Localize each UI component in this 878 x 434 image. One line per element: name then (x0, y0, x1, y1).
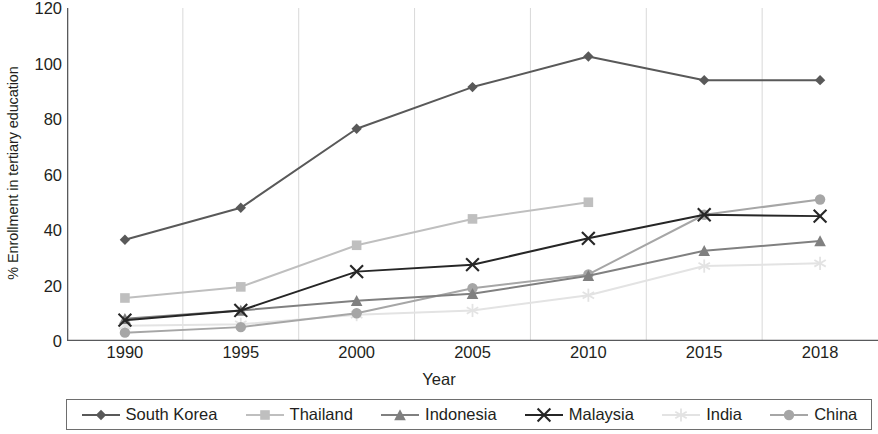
legend-item-malaysia[interactable]: Malaysia (524, 405, 634, 425)
y-tick-label: 20 (22, 277, 62, 294)
legend-label: China (811, 405, 857, 424)
marker-diamond (699, 75, 709, 85)
x-tick-label: 2010 (570, 344, 607, 361)
legend-label: Malaysia (566, 405, 634, 424)
x-tick-label: 2018 (802, 344, 839, 361)
legend-item-india[interactable]: India (661, 405, 742, 425)
legend-label: Indonesia (422, 405, 497, 424)
marker-diamond (583, 51, 593, 61)
legend-item-south-korea[interactable]: South Korea (81, 405, 218, 425)
x-tick-label: 2015 (686, 344, 723, 361)
legend-key-diamond-icon (81, 405, 121, 425)
tertiary-enrollment-line-chart: % Enrollment in tertiary education 12010… (0, 0, 878, 434)
y-tick-label: 100 (22, 55, 62, 72)
marker-square (120, 293, 130, 303)
legend-key-triangle-icon (380, 405, 420, 425)
y-tick-label: 40 (22, 222, 62, 239)
chart-legend: South KoreaThailandIndonesiaMalaysiaIndi… (66, 399, 872, 430)
x-axis-tick-labels: 1990199520002005201020152018 (67, 344, 878, 368)
legend-item-thailand[interactable]: Thailand (245, 405, 353, 425)
legend-key-x-icon (524, 405, 564, 425)
marker-diamond (815, 75, 825, 85)
marker-diamond (467, 82, 477, 92)
x-tick-label: 2005 (454, 344, 491, 361)
legend-label: India (703, 405, 742, 424)
marker-square (260, 410, 270, 420)
legend-item-china[interactable]: China (769, 405, 857, 425)
marker-circle (351, 308, 361, 318)
legend-key-circle-icon (769, 405, 809, 425)
plot-svg (67, 8, 878, 341)
legend-key-square-icon (245, 405, 285, 425)
x-tick-label: 1990 (107, 344, 144, 361)
marker-square (236, 282, 246, 292)
x-axis-title: Year (0, 370, 878, 389)
x-tick-label: 2000 (338, 344, 375, 361)
marker-square (584, 197, 594, 207)
marker-square (468, 214, 478, 224)
y-tick-label: 120 (22, 0, 62, 16)
marker-circle (236, 322, 246, 332)
marker-diamond (120, 235, 130, 245)
marker-square (352, 240, 362, 250)
y-tick-label: 0 (22, 333, 62, 350)
y-axis-tick-labels: 120100806040200 (20, 0, 62, 345)
x-tick-label: 1995 (222, 344, 259, 361)
y-tick-label: 80 (22, 111, 62, 128)
legend-label: Thailand (287, 405, 353, 424)
plot-area (67, 8, 878, 341)
marker-circle (120, 327, 130, 337)
legend-key-asterisk-icon (661, 405, 701, 425)
y-axis-title-text: % Enrollment in tertiary education (5, 66, 21, 279)
marker-circle (815, 194, 825, 204)
legend-label: South Korea (123, 405, 218, 424)
y-tick-label: 60 (22, 166, 62, 183)
marker-circle (784, 409, 794, 419)
marker-diamond (95, 409, 105, 419)
legend-item-indonesia[interactable]: Indonesia (380, 405, 497, 425)
